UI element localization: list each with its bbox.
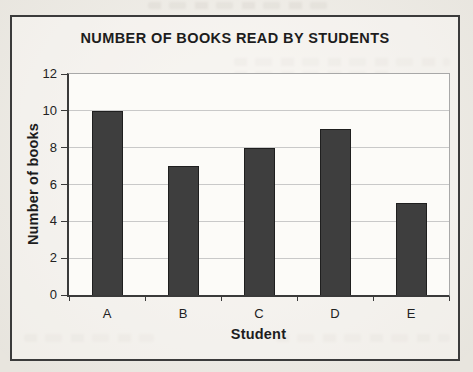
bar-C — [244, 148, 275, 295]
bar-A — [92, 111, 123, 295]
y-tick-label-4: 4 — [19, 214, 57, 228]
y-tick-label-10: 10 — [19, 104, 57, 118]
plot-area — [67, 73, 450, 297]
y-tick-8 — [61, 147, 67, 148]
x-tick-0 — [69, 297, 70, 301]
x-category-label-A: A — [87, 306, 127, 321]
x-category-label-B: B — [163, 306, 203, 321]
y-tick-4 — [61, 221, 67, 222]
chart-title: NUMBER OF BOOKS READ BY STUDENTS — [12, 30, 458, 46]
scanned-page: NUMBER OF BOOKS READ BY STUDENTS Number … — [0, 0, 473, 372]
y-tick-6 — [61, 184, 67, 185]
y-tick-2 — [61, 258, 67, 259]
x-tick-1 — [145, 297, 146, 301]
y-tick-label-2: 2 — [19, 251, 57, 265]
x-tick-5 — [449, 297, 450, 301]
y-tick-label-6: 6 — [19, 178, 57, 192]
x-category-label-C: C — [239, 306, 279, 321]
bar-E — [396, 203, 427, 295]
y-tick-0 — [61, 295, 67, 296]
x-category-label-E: E — [391, 306, 431, 321]
x-category-label-D: D — [315, 306, 355, 321]
y-tick-label-8: 8 — [19, 141, 57, 155]
bleed-through-smudge — [148, 2, 333, 9]
y-tick-label-0: 0 — [19, 288, 57, 302]
x-tick-4 — [373, 297, 374, 301]
chart-frame: NUMBER OF BOOKS READ BY STUDENTS Number … — [10, 15, 460, 361]
x-tick-2 — [221, 297, 222, 301]
gridline-10 — [69, 110, 449, 111]
x-axis-title: Student — [67, 326, 450, 342]
bar-D — [320, 129, 351, 295]
bar-B — [168, 166, 199, 295]
y-tick-12 — [61, 74, 67, 75]
x-tick-3 — [297, 297, 298, 301]
y-tick-label-12: 12 — [19, 67, 57, 81]
y-tick-10 — [61, 110, 67, 111]
